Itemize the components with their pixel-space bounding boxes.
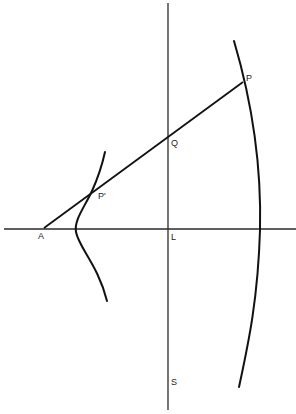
right-curve xyxy=(234,41,260,387)
line-a-to-p xyxy=(44,82,243,228)
label-q: Q xyxy=(171,138,178,148)
left-curve xyxy=(76,152,107,301)
label-a: A xyxy=(38,231,44,241)
geometric-diagram: P Q P' A L S xyxy=(0,0,296,414)
label-p: P xyxy=(246,73,252,83)
label-s: S xyxy=(171,377,177,387)
label-l: L xyxy=(171,232,176,242)
label-p-prime: P' xyxy=(98,191,106,201)
